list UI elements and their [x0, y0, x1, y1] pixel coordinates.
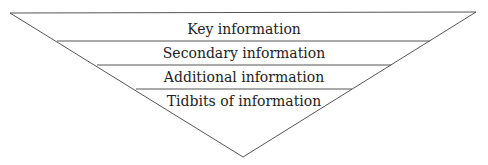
layer-secondary: Secondary information: [0, 44, 488, 62]
layer-tidbits: Tidbits of information: [0, 92, 488, 110]
layer-key: Key information: [0, 20, 488, 38]
layer-additional: Additional information: [0, 68, 488, 86]
